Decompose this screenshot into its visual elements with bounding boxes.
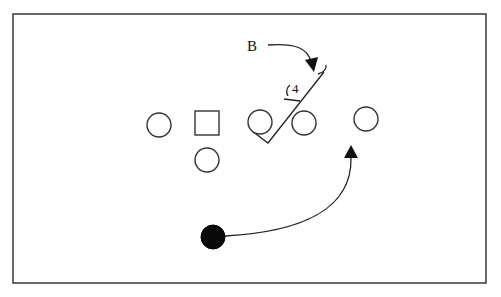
player-circle-left: [147, 113, 171, 137]
player-square-center: [195, 111, 219, 135]
play-diagram: B 4: [0, 0, 501, 297]
player-circle-tackle: [292, 111, 316, 135]
ball-carrier-filled-circle: [201, 225, 225, 249]
defender-label-b: B: [247, 38, 257, 54]
diagram-frame: [13, 14, 486, 283]
gap-number-label: 4: [292, 81, 299, 96]
player-circle-guard: [248, 110, 272, 134]
player-circle-behind-center: [195, 148, 219, 172]
player-circle-end: [354, 107, 378, 131]
